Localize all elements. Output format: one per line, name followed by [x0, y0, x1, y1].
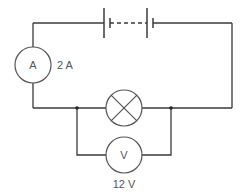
circuit-diagram: A 2 A V 12 V	[0, 0, 244, 196]
voltmeter-symbol: V	[120, 149, 128, 161]
ammeter-reading: 2 A	[57, 59, 74, 71]
ammeter: A 2 A	[15, 47, 74, 83]
ammeter-symbol: A	[29, 59, 37, 71]
lamp-icon	[106, 90, 142, 126]
voltmeter-reading: 12 V	[113, 178, 136, 190]
battery-icon	[104, 8, 153, 38]
voltmeter: V 12 V	[106, 137, 142, 190]
